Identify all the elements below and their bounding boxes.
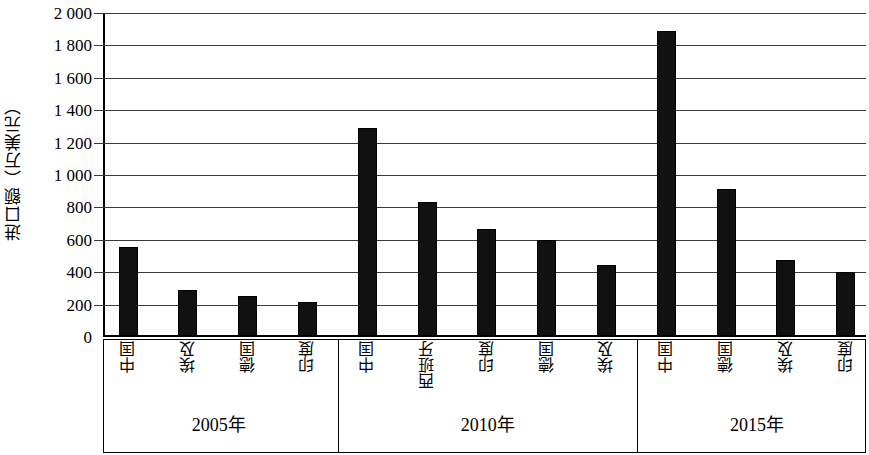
y-axis-tick-mark	[94, 175, 103, 176]
y-axis-tick-label: 800	[67, 199, 93, 216]
year-group-label: 2010年	[461, 410, 515, 436]
year-group-label: 2005年	[192, 410, 246, 436]
bar	[477, 229, 496, 336]
y-axis-tick-label: 1 200	[54, 134, 92, 151]
y-axis-tick-label: 400	[67, 264, 93, 281]
y-axis-tick-label: 200	[67, 296, 93, 313]
gridline	[103, 13, 866, 14]
y-axis-tick-mark	[94, 45, 103, 46]
gridline	[103, 45, 866, 46]
y-axis-tick-label: 1 600	[54, 69, 92, 86]
year-group-label: 2015年	[730, 410, 784, 436]
bar	[597, 265, 616, 336]
gridline	[103, 175, 866, 176]
bar	[358, 128, 377, 336]
y-axis-tick-label: 1 000	[54, 167, 92, 184]
y-axis-tick-label: 1 400	[54, 102, 92, 119]
y-axis-tick-label: 600	[67, 231, 93, 248]
gridline	[103, 143, 866, 144]
group-separator	[338, 340, 339, 452]
bar	[298, 302, 317, 336]
bar	[836, 272, 855, 336]
group-label-box: 2005年2010年2015年	[103, 339, 866, 453]
gridline	[103, 78, 866, 79]
y-axis-tick-labels: 2 0001 8001 6001 4001 2001 0008006004002…	[26, 0, 98, 350]
bar	[537, 240, 556, 336]
y-axis-title: 进口额（万美元）	[0, 0, 26, 337]
y-axis-tick-mark	[94, 305, 103, 306]
y-axis-tick-mark	[94, 240, 103, 241]
y-axis-tick-label: 0	[84, 329, 93, 346]
y-axis-tick-label: 1 800	[54, 37, 92, 54]
y-axis-tick-mark	[94, 207, 103, 208]
bar	[776, 260, 795, 336]
bar	[238, 296, 257, 336]
bar-chart: 进口额（万美元） 2 0001 8001 6001 4001 2001 0008…	[0, 0, 869, 455]
y-axis-tick-mark	[94, 13, 103, 14]
y-axis-tick-mark	[94, 110, 103, 111]
y-axis-title-text: 进口额（万美元）	[1, 97, 26, 241]
y-axis-tick-mark	[94, 272, 103, 273]
bar	[418, 202, 437, 336]
y-axis-tick-label: 2 000	[54, 5, 92, 22]
plot-area	[103, 13, 866, 337]
gridline	[103, 110, 866, 111]
bar	[717, 189, 736, 336]
bar	[178, 290, 197, 336]
bar	[657, 31, 676, 336]
bar	[119, 247, 138, 336]
y-axis-tick-mark	[94, 78, 103, 79]
group-separator	[637, 340, 638, 452]
gridline	[103, 207, 866, 208]
y-axis-tick-mark	[94, 143, 103, 144]
